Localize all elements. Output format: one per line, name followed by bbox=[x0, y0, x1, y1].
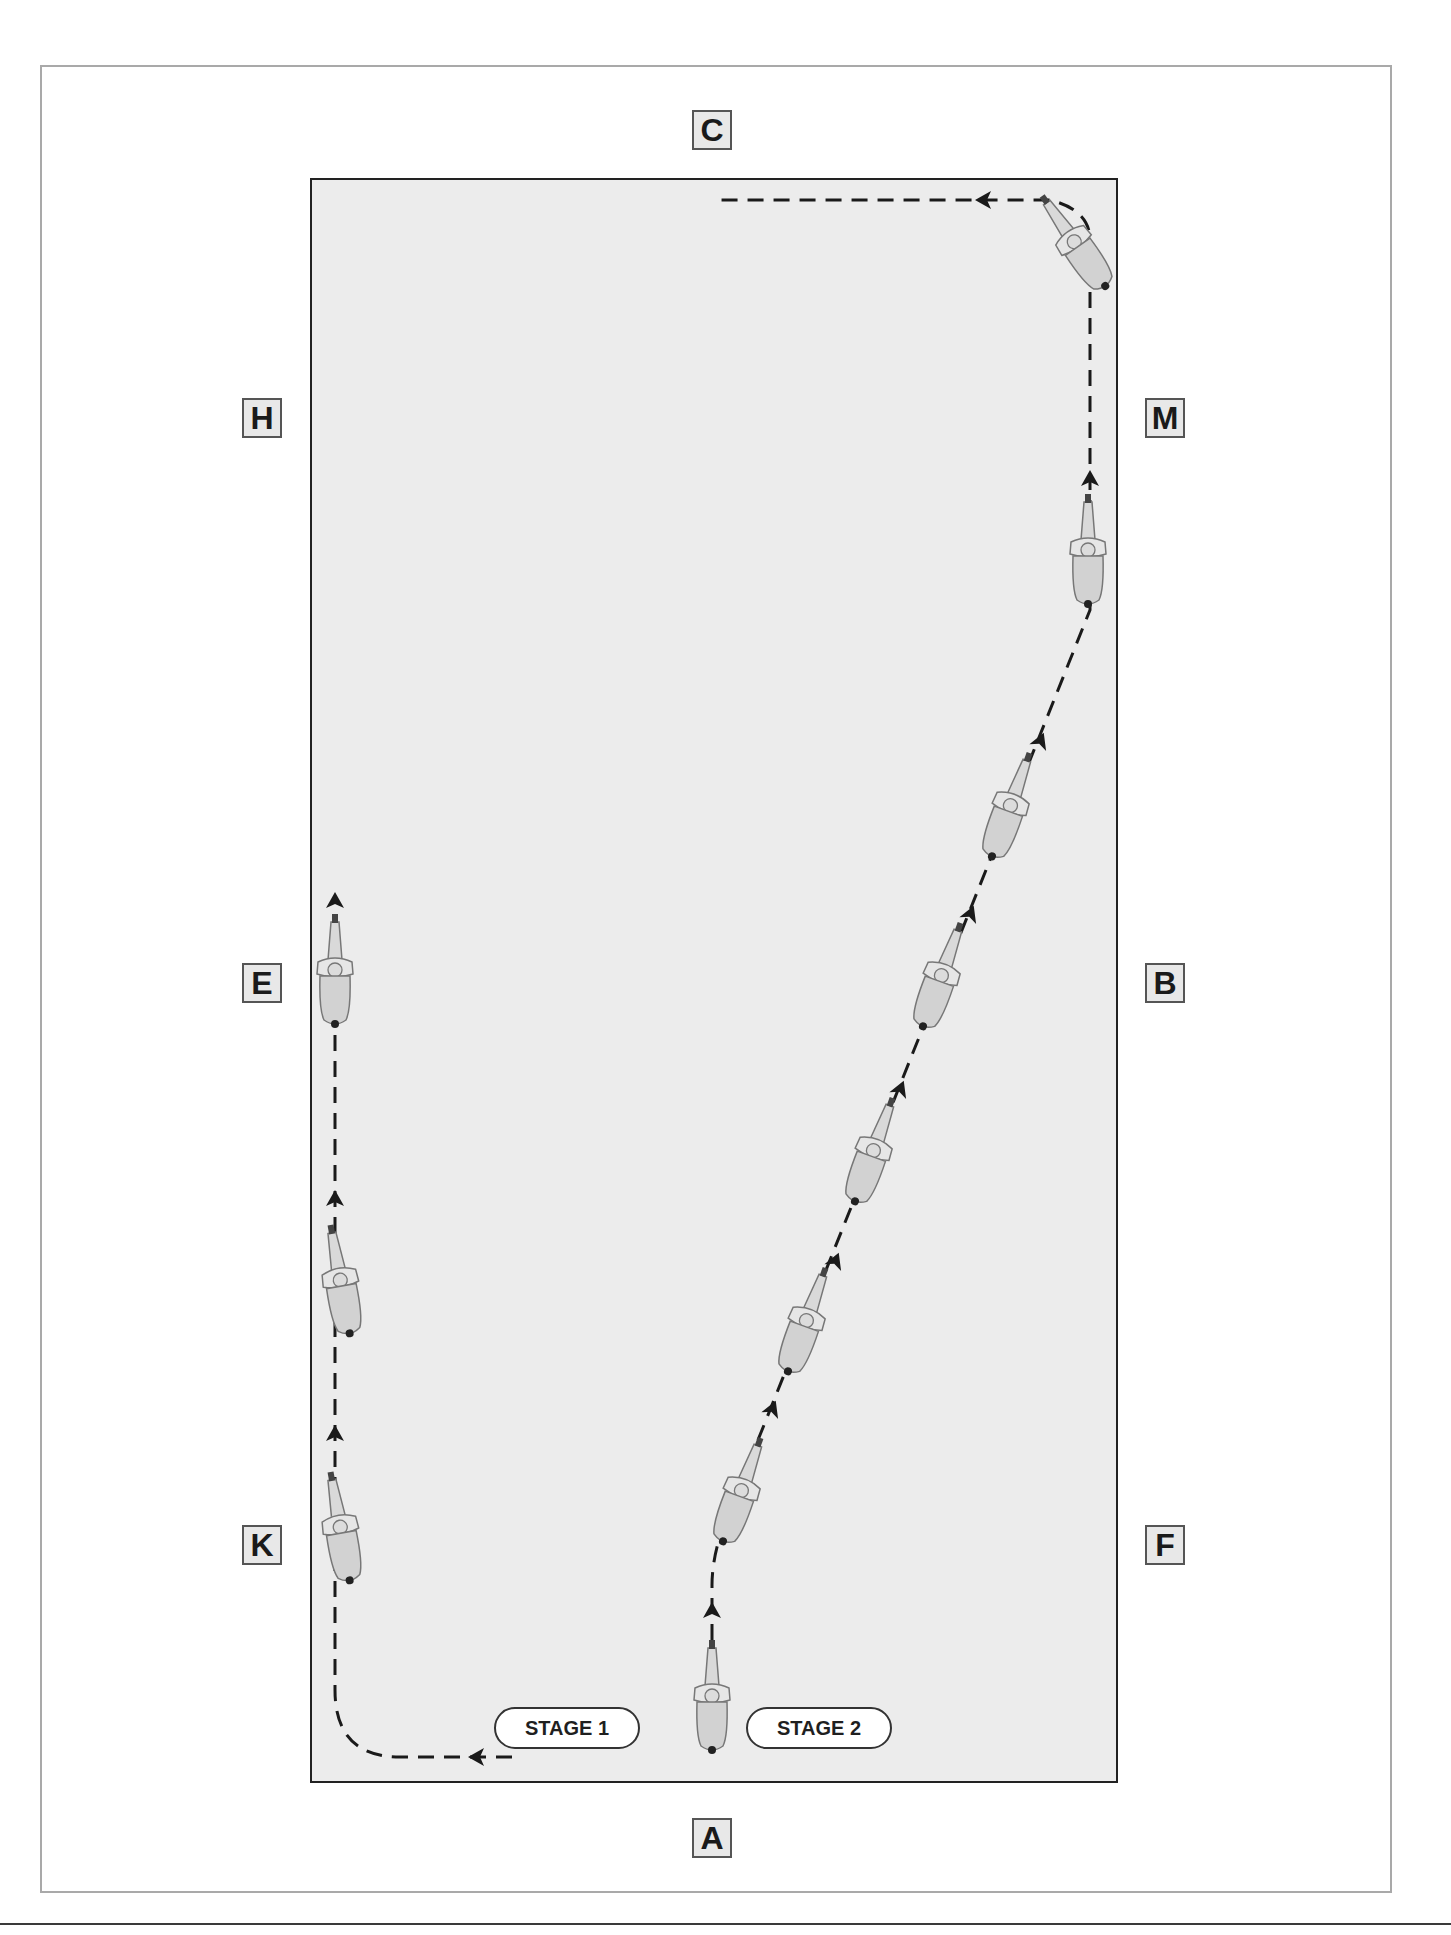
stage-1-path bbox=[335, 920, 512, 1757]
movement-paths bbox=[0, 0, 1451, 1935]
stage-1-label: STAGE 1 bbox=[494, 1707, 640, 1749]
stage-2-label: STAGE 2 bbox=[746, 1707, 892, 1749]
stage-2-path bbox=[712, 200, 1090, 1640]
